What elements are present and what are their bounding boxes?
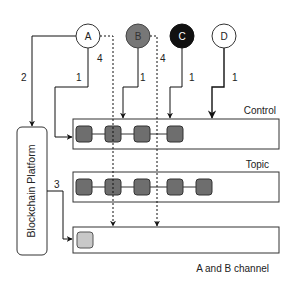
node-c: C	[170, 24, 194, 48]
ab-channel-label: A and B channel	[196, 263, 269, 274]
node-c-label: C	[178, 31, 185, 42]
node-b-label: B	[135, 31, 142, 42]
edge-a-platform	[32, 36, 76, 126]
edge-label-c-control: 1	[189, 72, 195, 83]
edge-platform-ab	[47, 191, 72, 239]
edge-label-b-control: 1	[140, 72, 146, 83]
edge-label-a-platform: 2	[21, 72, 27, 83]
edge-c-control	[170, 48, 182, 118]
edge-label-b-dashed: 4	[160, 53, 166, 64]
block	[167, 126, 183, 142]
block	[134, 179, 150, 195]
ab-block	[77, 232, 93, 248]
topic-label: Topic	[246, 159, 269, 170]
edge-label-a-dashed: 4	[97, 53, 103, 64]
block	[76, 179, 92, 195]
control-label: Control	[244, 105, 276, 116]
edge-d-control	[212, 48, 224, 118]
blockchain-platform-label: Blockchain Platform	[25, 144, 37, 237]
node-a-label: A	[85, 31, 92, 42]
edge-label-platform-ab: 3	[54, 179, 60, 190]
node-d-label: D	[220, 31, 227, 42]
node-b: B	[126, 24, 150, 48]
edge-b-control	[123, 48, 138, 118]
edge-label-d-control: 1	[232, 72, 238, 83]
block	[134, 126, 150, 142]
block	[196, 179, 212, 195]
ab-channel-box	[73, 227, 279, 253]
edge-label-a-control: 1	[76, 72, 82, 83]
node-a: A	[76, 24, 100, 48]
diagram-canvas: Blockchain Platform Control Topic A and …	[0, 0, 295, 284]
block	[167, 179, 183, 195]
node-d: D	[212, 24, 236, 48]
block	[76, 126, 92, 142]
